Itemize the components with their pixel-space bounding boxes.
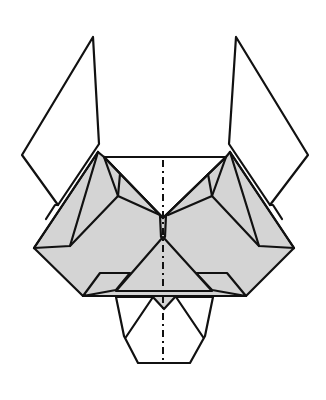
- center-slit-right: [165, 215, 166, 237]
- origami-diagram: [0, 0, 326, 400]
- center-slit-left: [160, 215, 161, 237]
